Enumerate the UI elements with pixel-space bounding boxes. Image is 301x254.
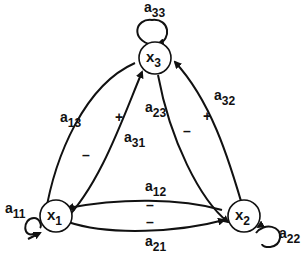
label-a22: a22	[279, 225, 300, 246]
label-a21: a21	[145, 233, 166, 254]
label-a33: a33	[144, 0, 165, 20]
label-a32: a32	[214, 87, 235, 108]
edge-a12	[68, 201, 222, 210]
sign-a12: –	[146, 197, 154, 213]
signed-digraph: x3 x1 x2 a33 a11 a22 a13 a31 a23 a32 a12…	[0, 0, 301, 254]
sign-a13: –	[82, 147, 90, 163]
node-x1: x1	[40, 200, 72, 232]
self-loop-a11	[25, 218, 41, 239]
edge-a31	[64, 72, 142, 221]
sign-a21: –	[146, 214, 154, 230]
node-x2: x2	[228, 200, 260, 232]
edge-a13	[45, 63, 135, 216]
node-x3: x3	[139, 42, 171, 74]
self-loop-a33	[137, 20, 167, 45]
label-a31: a31	[124, 129, 145, 150]
label-a11: a11	[5, 200, 26, 221]
sign-a32: +	[203, 108, 211, 124]
self-loop-a22	[256, 224, 280, 247]
label-a12: a12	[145, 178, 166, 199]
sign-a31: +	[115, 109, 123, 125]
sign-a23: –	[183, 123, 191, 139]
label-a13: a13	[60, 109, 81, 130]
